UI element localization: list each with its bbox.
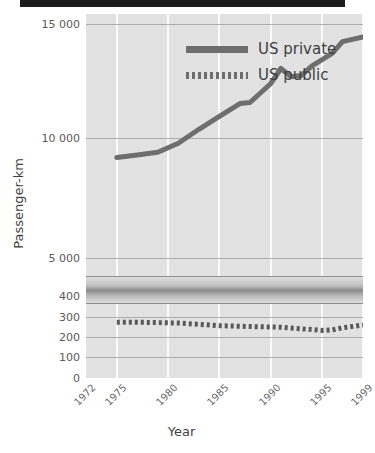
legend-item-us-public: US public: [186, 62, 336, 88]
x-axis-title: Year: [0, 424, 363, 439]
legend-swatch-dotted-icon: [186, 72, 248, 79]
y-tick-label-100: 100: [2, 351, 80, 364]
x-tick-label-1985: 1985: [192, 382, 231, 421]
legend-swatch-solid-icon: [186, 46, 248, 53]
line-us-public: [117, 322, 363, 330]
plot-area: US private US public: [86, 14, 363, 378]
y-axis-title: Passenger-km: [11, 134, 26, 274]
x-tick-label-1995: 1995: [295, 382, 334, 421]
x-tick-label-1990: 1990: [244, 382, 283, 421]
y-tick-label-400: 400: [2, 290, 80, 303]
legend-label-us-private: US private: [258, 40, 336, 58]
y-tick-label-200: 200: [2, 331, 80, 344]
x-tick-label-1999: 1999: [336, 382, 375, 421]
legend-item-us-private: US private: [186, 36, 336, 62]
x-axis: 1972197519801985199019951999: [0, 382, 363, 422]
y-tick-label-300: 300: [2, 311, 80, 324]
legend: US private US public: [186, 36, 336, 88]
legend-label-us-public: US public: [258, 66, 328, 84]
y-tick-label-15000: 15 000: [2, 18, 80, 31]
x-tick-label-1980: 1980: [141, 382, 180, 421]
